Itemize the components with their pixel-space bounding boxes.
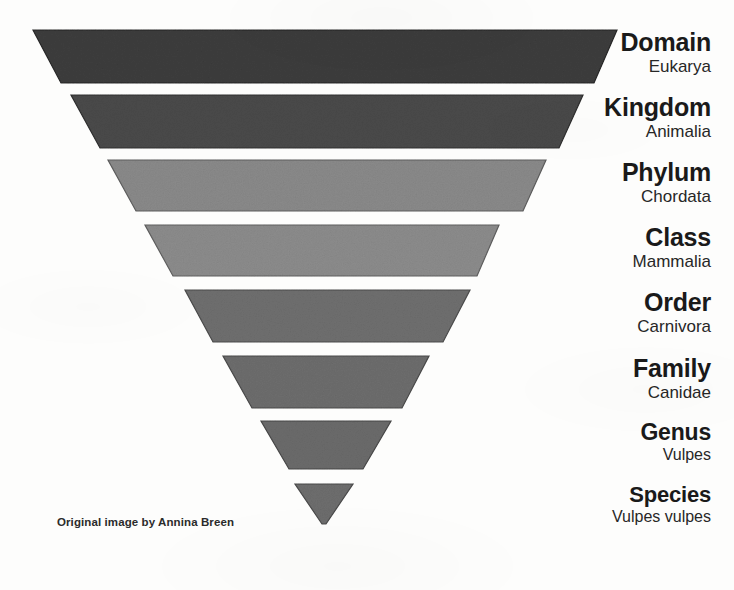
taxon-name-class: Mammalia bbox=[633, 253, 711, 270]
funnel-band-family bbox=[223, 356, 429, 408]
taxon-name-family: Canidae bbox=[633, 384, 711, 401]
rank-label-order: OrderCarnivora bbox=[637, 290, 711, 335]
taxon-name-genus: Vulpes bbox=[640, 447, 711, 463]
funnel-band-kingdom bbox=[71, 95, 583, 148]
rank-label-species: SpeciesVulpes vulpes bbox=[612, 484, 711, 525]
rank-label-domain: DomainEukarya bbox=[621, 30, 711, 75]
funnel-band-genus bbox=[261, 421, 391, 469]
rank-name-family: Family bbox=[633, 356, 711, 381]
rank-name-genus: Genus bbox=[640, 421, 711, 444]
rank-label-class: ClassMammalia bbox=[633, 225, 711, 270]
funnel-band-species bbox=[295, 484, 353, 524]
rank-name-species: Species bbox=[612, 484, 711, 506]
rank-name-phylum: Phylum bbox=[622, 160, 711, 185]
taxon-name-phylum: Chordata bbox=[622, 188, 711, 205]
taxon-name-domain: Eukarya bbox=[621, 58, 711, 75]
rank-name-class: Class bbox=[633, 225, 711, 250]
rank-name-domain: Domain bbox=[621, 30, 711, 55]
rank-name-order: Order bbox=[637, 290, 711, 315]
rank-label-genus: GenusVulpes bbox=[640, 421, 711, 463]
taxonomy-funnel-diagram: DomainEukaryaKingdomAnimaliaPhylumChorda… bbox=[0, 0, 734, 590]
attribution-text: Original image by Annina Breen bbox=[57, 516, 234, 528]
rank-label-kingdom: KingdomAnimalia bbox=[604, 95, 711, 140]
rank-label-family: FamilyCanidae bbox=[633, 356, 711, 401]
funnel-band-domain bbox=[33, 30, 617, 83]
rank-label-phylum: PhylumChordata bbox=[622, 160, 711, 205]
rank-name-kingdom: Kingdom bbox=[604, 95, 711, 120]
taxon-name-order: Carnivora bbox=[637, 318, 711, 335]
funnel-band-class bbox=[145, 225, 499, 276]
taxon-name-species: Vulpes vulpes bbox=[612, 509, 711, 525]
funnel-band-phylum bbox=[108, 160, 546, 211]
funnel-band-order bbox=[185, 290, 470, 342]
taxon-name-kingdom: Animalia bbox=[604, 123, 711, 140]
funnel-band-group bbox=[33, 30, 617, 524]
